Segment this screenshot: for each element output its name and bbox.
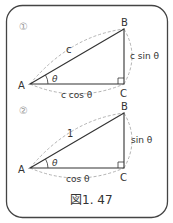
vertex-b: B (121, 101, 128, 112)
vertex-a: A (18, 80, 25, 91)
hypotenuse-label: 1 (67, 128, 73, 139)
panel-1-marker: ① (19, 21, 28, 32)
hypotenuse-label: c (66, 44, 72, 55)
vertex-a: A (18, 164, 25, 175)
panel-2-marker: ② (19, 105, 28, 116)
figure-caption: 図1. 47 (70, 193, 113, 207)
opposite-label: c sin θ (130, 51, 160, 61)
adjacent-label: c cos θ (61, 90, 93, 100)
vertex-b: B (121, 17, 128, 28)
figure-frame (7, 6, 168, 218)
adjacent-label: cos θ (66, 174, 90, 184)
figure-canvas: ① A B C θ c c sin θ c cos θ ② A B C θ 1 … (0, 0, 173, 223)
vertex-c: C (120, 88, 127, 99)
angle-label: θ (52, 74, 58, 84)
angle-label: θ (52, 158, 58, 168)
vertex-c: C (120, 172, 127, 183)
opposite-label: sin θ (131, 135, 153, 145)
